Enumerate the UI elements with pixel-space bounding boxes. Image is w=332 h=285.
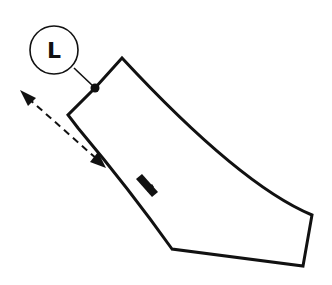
diagram-canvas: L bbox=[0, 0, 332, 285]
leader-line bbox=[74, 68, 93, 86]
callout-label: L bbox=[47, 38, 61, 63]
movement-arrow bbox=[20, 90, 106, 168]
clip-tab bbox=[136, 174, 158, 197]
callout-bubble: L bbox=[30, 26, 78, 74]
panel-outline bbox=[68, 58, 312, 266]
